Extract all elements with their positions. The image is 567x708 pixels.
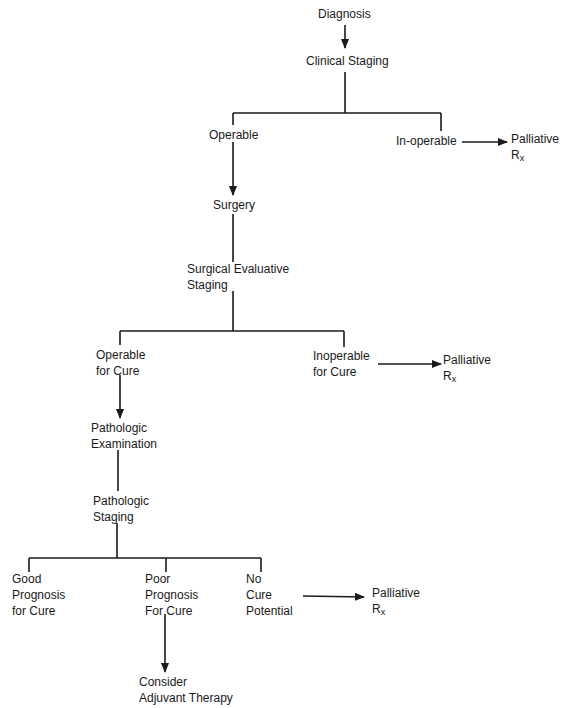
node-surgical-evaluative-staging: Surgical Evaluative Staging: [187, 261, 289, 293]
node-label: Potential: [246, 603, 293, 619]
node-label: Good: [12, 571, 65, 587]
node-label: No: [246, 571, 293, 587]
node-label: Palliative: [443, 352, 491, 368]
node-operable: Operable: [209, 127, 258, 143]
node-label: Clinical Staging: [306, 53, 389, 69]
node-palliative-1: Palliative Rx: [511, 131, 559, 166]
node-adjuvant-therapy: Consider Adjuvant Therapy: [139, 674, 233, 706]
rx-label: Rx: [372, 601, 420, 620]
node-surgery: Surgery: [213, 197, 255, 213]
node-label: Palliative: [511, 131, 559, 147]
node-label: Cure: [246, 587, 293, 603]
node-label: for Cure: [96, 363, 145, 379]
node-label: Pathologic: [93, 493, 149, 509]
node-inoperable-for-cure: Inoperable for Cure: [313, 348, 370, 380]
node-diagnosis: Diagnosis: [318, 6, 371, 22]
node-label: Operable: [96, 347, 145, 363]
node-no-cure-potential: No Cure Potential: [246, 571, 293, 619]
node-label: Staging: [187, 277, 289, 293]
node-label: Prognosis: [145, 587, 198, 603]
node-poor-prognosis: Poor Prognosis For Cure: [145, 571, 198, 619]
node-operable-for-cure: Operable for Cure: [96, 347, 145, 379]
node-label: Staging: [93, 509, 149, 525]
node-label: Examination: [91, 436, 157, 452]
node-label: Palliative: [372, 585, 420, 601]
node-label: Diagnosis: [318, 6, 371, 22]
node-label: Surgical Evaluative: [187, 261, 289, 277]
arrow-no-cure-to-palliative: [303, 596, 364, 597]
node-label: Adjuvant Therapy: [139, 690, 233, 706]
node-good-prognosis: Good Prognosis for Cure: [12, 571, 65, 619]
node-label: Operable: [209, 127, 258, 143]
node-label: for Cure: [313, 364, 370, 380]
node-label: For Cure: [145, 603, 198, 619]
node-palliative-2: Palliative Rx: [443, 352, 491, 387]
node-pathologic-examination: Pathologic Examination: [91, 420, 157, 452]
node-label: Pathologic: [91, 420, 157, 436]
node-label: Poor: [145, 571, 198, 587]
node-clinical-staging: Clinical Staging: [306, 53, 389, 69]
node-label: In-operable: [396, 133, 457, 149]
rx-label: Rx: [511, 147, 559, 166]
node-pathologic-staging: Pathologic Staging: [93, 493, 149, 525]
node-label: Inoperable: [313, 348, 370, 364]
node-inoperable: In-operable: [396, 133, 457, 149]
node-label: Prognosis: [12, 587, 65, 603]
rx-label: Rx: [443, 368, 491, 387]
node-label: for Cure: [12, 603, 65, 619]
node-palliative-3: Palliative Rx: [372, 585, 420, 620]
node-label: Surgery: [213, 197, 255, 213]
node-label: Consider: [139, 674, 233, 690]
